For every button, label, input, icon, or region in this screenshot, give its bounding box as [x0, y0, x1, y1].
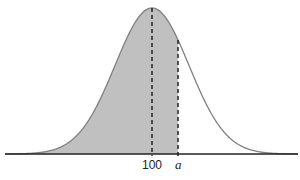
normal-curve-diagram: 100 a [0, 0, 300, 180]
mean-label: 100 [142, 158, 162, 172]
curve-graphic [0, 0, 300, 180]
a-label: a [175, 157, 182, 173]
